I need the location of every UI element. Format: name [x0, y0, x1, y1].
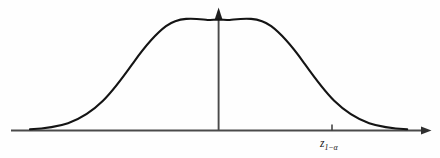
quantile-tick-label: z1−α: [320, 138, 337, 150]
quantile-label-subscript: 1−α: [324, 143, 337, 152]
y-axis-arrow-icon: [215, 8, 223, 20]
normal-curve-plot: [0, 0, 440, 158]
normal-curve-figure: z1−α: [0, 0, 440, 158]
x-axis-arrow-icon: [421, 127, 432, 135]
